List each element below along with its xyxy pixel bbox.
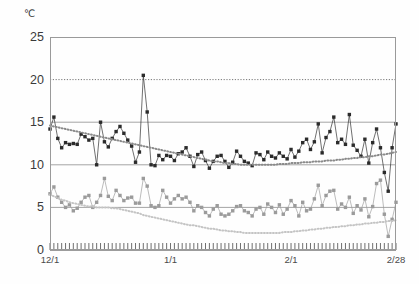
- data-point-marker: [184, 146, 187, 149]
- data-point-marker: [215, 155, 218, 158]
- data-point-marker: [87, 194, 90, 197]
- data-point-marker: [270, 206, 273, 209]
- data-point-marker: [313, 197, 316, 200]
- data-point-marker: [235, 149, 238, 152]
- data-point-marker: [305, 138, 308, 141]
- data-point-marker: [122, 199, 125, 202]
- data-point-marker: [313, 140, 316, 143]
- data-point-marker: [204, 211, 207, 214]
- data-point-marker: [153, 164, 156, 167]
- data-point-marker: [336, 207, 339, 210]
- data-point-marker: [165, 154, 168, 157]
- data-point-marker: [262, 158, 265, 161]
- data-point-marker: [247, 211, 250, 214]
- data-point-marker: [76, 207, 79, 210]
- data-point-marker: [153, 206, 156, 209]
- data-point-marker: [278, 203, 281, 206]
- data-point-marker: [157, 204, 160, 207]
- data-point-marker: [266, 150, 269, 153]
- data-point-marker: [324, 194, 327, 197]
- data-point-marker: [344, 143, 347, 146]
- data-point-marker: [169, 201, 172, 204]
- data-point-marker: [363, 197, 366, 200]
- data-point-marker: [130, 144, 133, 147]
- data-point-marker: [192, 209, 195, 212]
- data-point-marker: [383, 171, 386, 174]
- data-point-marker: [390, 146, 393, 149]
- series-line-upper-series: [50, 75, 396, 191]
- data-point-marker: [328, 130, 331, 133]
- data-point-marker: [352, 212, 355, 215]
- data-point-marker: [297, 149, 300, 152]
- data-point-marker: [320, 151, 323, 154]
- data-point-marker: [371, 205, 374, 208]
- temperature-chart: ℃ 0510152025 12/11/12/12/28: [0, 0, 419, 284]
- data-point-marker: [387, 235, 390, 238]
- data-point-marker: [227, 166, 230, 169]
- data-point-marker: [355, 149, 358, 152]
- data-point-marker: [103, 177, 106, 180]
- data-point-marker: [301, 201, 304, 204]
- data-point-marker: [243, 209, 246, 212]
- data-point-marker: [394, 201, 397, 204]
- data-point-marker: [188, 201, 191, 204]
- data-point-marker: [165, 195, 168, 198]
- plot-area: [0, 0, 419, 284]
- data-point-marker: [379, 146, 382, 149]
- data-point-marker: [118, 125, 121, 128]
- data-point-marker: [138, 201, 141, 204]
- data-point-marker: [289, 199, 292, 202]
- data-point-marker: [91, 137, 94, 140]
- data-point-marker: [114, 130, 117, 133]
- data-point-marker: [107, 145, 110, 148]
- data-point-marker: [293, 204, 296, 207]
- data-point-marker: [79, 201, 82, 204]
- data-point-marker: [243, 160, 246, 163]
- data-point-marker: [274, 156, 277, 159]
- data-point-marker: [161, 158, 164, 161]
- data-point-marker: [169, 155, 172, 158]
- data-point-marker: [332, 189, 335, 192]
- data-point-marker: [309, 148, 312, 151]
- data-point-marker: [161, 189, 164, 192]
- data-point-marker: [173, 159, 176, 162]
- data-point-marker: [254, 207, 257, 210]
- data-point-marker: [297, 214, 300, 217]
- x-tick-label-3: 2/28: [387, 254, 406, 265]
- data-point-marker: [328, 190, 331, 193]
- data-point-marker: [52, 115, 55, 118]
- data-point-marker: [375, 127, 378, 130]
- data-point-marker: [317, 122, 320, 125]
- data-point-marker: [200, 206, 203, 209]
- data-point-marker: [282, 213, 285, 216]
- data-point-marker: [367, 161, 370, 164]
- data-point-marker: [64, 206, 67, 209]
- data-point-marker: [180, 197, 183, 200]
- data-point-marker: [270, 155, 273, 158]
- data-point-marker: [60, 201, 63, 204]
- data-point-marker: [340, 138, 343, 141]
- data-point-marker: [173, 197, 176, 200]
- data-point-marker: [285, 157, 288, 160]
- data-point-marker: [196, 204, 199, 207]
- data-point-marker: [320, 204, 323, 207]
- data-point-marker: [87, 138, 90, 141]
- data-point-marker: [149, 204, 152, 207]
- data-point-marker: [134, 201, 137, 204]
- data-point-marker: [301, 141, 304, 144]
- data-point-marker: [56, 137, 59, 140]
- data-point-marker: [99, 194, 102, 197]
- data-point-marker: [95, 163, 98, 166]
- data-point-marker: [142, 74, 145, 77]
- data-point-marker: [219, 154, 222, 157]
- data-point-marker: [180, 150, 183, 153]
- data-point-marker: [68, 203, 71, 206]
- data-point-marker: [200, 150, 203, 153]
- data-point-marker: [60, 146, 63, 149]
- x-tick-label-0: 12/1: [41, 254, 60, 265]
- data-point-marker: [107, 195, 110, 198]
- data-point-marker: [114, 189, 117, 192]
- data-point-marker: [111, 199, 114, 202]
- data-point-marker: [126, 138, 129, 141]
- data-point-marker: [64, 141, 67, 144]
